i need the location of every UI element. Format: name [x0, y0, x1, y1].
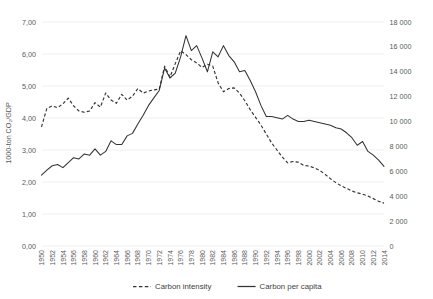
y-axis-tick-label: 7,00: [22, 18, 36, 27]
y-axis-tick-label: 2,00: [22, 178, 36, 187]
right-axis-tick-label: 0: [390, 242, 394, 251]
series-carbon-per-capita: [42, 36, 385, 175]
right-axis-tick-label: 6 000: [390, 167, 408, 176]
y-axis-title-text: 1000-ton CO₂/GDP: [4, 102, 13, 164]
x-axis-tick-label: 2010: [359, 250, 366, 266]
y-axis-tick-label: 6,00: [22, 50, 36, 59]
right-axis-tick-label: 4 000: [390, 192, 408, 201]
x-axis-tick-label: 2000: [306, 250, 313, 266]
x-axis-tick-label: 1966: [124, 250, 131, 266]
legend-label: Carbon intensity: [155, 282, 211, 291]
x-axis-tick-label: 2014: [381, 250, 388, 266]
x-axis-tick-label: 1970: [145, 250, 152, 266]
x-axis-tick-label: 1990: [252, 250, 259, 266]
x-axis-tick-label: 1956: [70, 250, 77, 266]
x-axis-tick-label: 1964: [113, 250, 120, 266]
x-axis-tick-label: 1974: [167, 250, 174, 266]
right-axis-tick-label: 14 000: [390, 67, 412, 76]
left-axis-tick-labels: 0,001,002,003,004,005,006,007,00: [22, 18, 36, 251]
x-axis-tick-label: 1982: [209, 250, 216, 266]
x-axis-tick-label: 2012: [370, 250, 377, 266]
chart-legend: Carbon intensityCarbon per capita: [133, 282, 322, 291]
right-axis-tick-label: 8 000: [390, 142, 408, 151]
x-axis-tick-label: 1968: [134, 250, 141, 266]
x-axis-tick-label: 1980: [199, 250, 206, 266]
x-axis-tick-labels: 1950195219541956195819601962196419661968…: [38, 250, 388, 266]
y-axis-tick-label: 5,00: [22, 82, 36, 91]
right-axis-tick-label: 10 000: [390, 117, 412, 126]
right-axis-tick-labels: 02 0004 0006 0008 00010 00012 00014 0001…: [390, 18, 412, 251]
x-axis-tick-label: 1958: [81, 250, 88, 266]
x-axis-tick-label: 1952: [49, 250, 56, 266]
x-axis-tick-label: 2002: [316, 250, 323, 266]
right-axis-tick-label: 18 000: [390, 18, 412, 27]
x-axis-tick-label: 1988: [241, 250, 248, 266]
x-axis-tick-label: 1996: [284, 250, 291, 266]
series-carbon-intensity: [42, 51, 385, 203]
x-axis-tick-label: 1962: [102, 250, 109, 266]
right-axis-tick-label: 2 000: [390, 217, 408, 226]
x-axis-tick-label: 1984: [220, 250, 227, 266]
x-axis-tick-label: 1960: [92, 250, 99, 266]
y-axis-tick-label: 1,00: [22, 210, 36, 219]
right-axis-tick-label: 12 000: [390, 92, 412, 101]
x-axis-tick-label: 1998: [295, 250, 302, 266]
y-axis-tick-label: 3,00: [22, 146, 36, 155]
x-axis-tick-label: 1992: [263, 250, 270, 266]
gridlines: [42, 22, 385, 246]
y-axis-tick-label: 0,00: [22, 242, 36, 251]
data-series-group: [42, 36, 385, 203]
x-axis-tick-label: 1976: [177, 250, 184, 266]
x-axis-tick-label: 1950: [38, 250, 45, 266]
x-axis-tick-label: 2004: [327, 250, 334, 266]
x-axis-tick-label: 1986: [231, 250, 238, 266]
y-axis-tick-label: 4,00: [22, 114, 36, 123]
x-axis-tick-label: 2008: [348, 250, 355, 266]
x-axis-tick-label: 2006: [338, 250, 345, 266]
x-axis-tick-label: 1972: [156, 250, 163, 266]
legend-label: Carbon per capita: [260, 282, 323, 291]
left-axis-title: 1000-ton CO₂/GDP: [4, 102, 13, 164]
chart-container: 0,001,002,003,004,005,006,007,00 02 0004…: [0, 0, 433, 299]
line-chart: 0,001,002,003,004,005,006,007,00 02 0004…: [0, 0, 433, 299]
x-axis-tick-label: 1978: [188, 250, 195, 266]
x-axis-tick-label: 1954: [60, 250, 67, 266]
right-axis-tick-label: 16 000: [390, 42, 412, 51]
x-axis-tick-label: 1994: [274, 250, 281, 266]
